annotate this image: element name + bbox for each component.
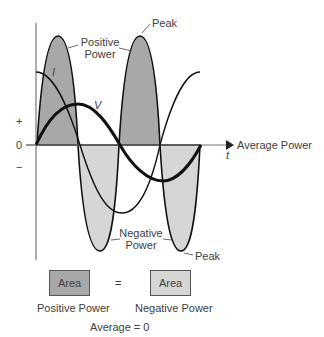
- peak-top-leader: [142, 24, 150, 33]
- equals-sign: =: [115, 277, 121, 289]
- average-power-label: Average Power: [237, 139, 312, 151]
- time-label: t: [226, 149, 229, 161]
- negative-area-box: Area: [150, 270, 191, 296]
- positive-power-caption: Positive Power: [37, 302, 110, 314]
- negative-power-lobe-1: [78, 145, 119, 251]
- peak-bottom-leader: [184, 253, 193, 255]
- positive-power-lobe-2: [119, 36, 160, 145]
- current-label: I: [52, 66, 55, 78]
- positive-power-label: Positive Power: [78, 36, 122, 60]
- peak-top-label: Peak: [152, 17, 177, 29]
- average-summary: Average = 0: [90, 321, 149, 333]
- negative-power-label: Negative Power: [118, 227, 164, 251]
- voltage-label: V: [94, 99, 101, 111]
- positive-power-leader-left: [68, 45, 78, 48]
- negative-power-leader-right: [163, 239, 172, 240]
- positive-area-box: Area: [49, 270, 90, 296]
- zero-label: 0: [16, 139, 22, 151]
- plus-label: +: [16, 115, 22, 127]
- peak-bottom-label: Peak: [195, 250, 220, 262]
- minus-label: −: [16, 161, 22, 173]
- negative-power-caption: Negative Power: [135, 302, 213, 314]
- negative-power-lobe-2: [160, 145, 200, 251]
